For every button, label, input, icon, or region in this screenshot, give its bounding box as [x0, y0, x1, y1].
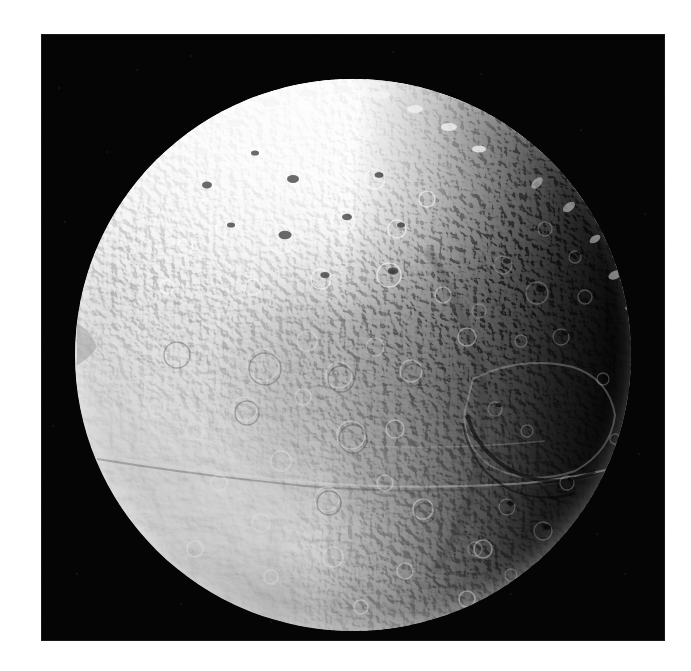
- iapetus-disk: [75, 79, 631, 631]
- limb-highlight: [75, 79, 631, 631]
- iapetus-photograph: [41, 34, 665, 641]
- page-background: [0, 0, 691, 671]
